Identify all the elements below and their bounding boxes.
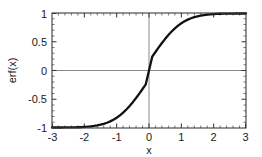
y-tick-label-neg-0-5: -0.5 [28,93,47,105]
y-tick-label-neg-1: -1 [37,122,47,134]
y-axis-title: erf(x) [6,58,18,84]
x-tick-label-0: 0 [146,131,152,143]
x-tick-label-3: 3 [242,131,248,143]
x-tick-label-2: 2 [211,131,217,143]
x-tick-label-neg-2: -2 [79,131,89,143]
y-tick-label-0: 0 [41,65,47,77]
x-tick-label-neg-1: -1 [112,131,122,143]
x-axis-title: x [146,144,152,156]
y-tick-label-0-5: 0.5 [32,36,47,48]
x-tick-label-1: 1 [178,131,184,143]
chart-figure: 1 0.5 0 -0.5 -1 -3 -2 -1 0 1 2 3 x erf(x… [0,0,262,157]
x-tick-label-neg-3: -3 [48,131,58,143]
erf-function-plot: 1 0.5 0 -0.5 -1 -3 -2 -1 0 1 2 3 x erf(x… [0,0,262,157]
y-tick-label-1: 1 [41,8,47,20]
